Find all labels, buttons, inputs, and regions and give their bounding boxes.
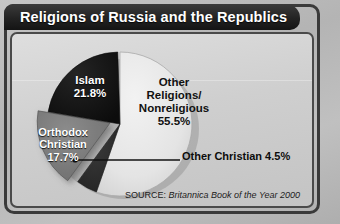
pie-chart bbox=[20, 34, 220, 208]
pie-svg bbox=[20, 34, 220, 208]
source-label: SOURCE: bbox=[125, 190, 166, 200]
title-bar: Religions of Russia and the Republics bbox=[4, 4, 300, 30]
pie-label-other-christian: Other Christian 4.5% bbox=[182, 150, 290, 162]
page-title: Religions of Russia and the Republics bbox=[20, 9, 287, 25]
chart-figure: Religions of Russia and the Republics bbox=[0, 0, 340, 224]
source-reference: Britannica Book of the Year 2000 bbox=[169, 190, 300, 200]
chart-panel: Islam 21.8% Orthodox Christian 17.7% Oth… bbox=[10, 32, 314, 208]
pie-slice-islam bbox=[48, 52, 120, 124]
source-note: SOURCE: Britannica Book of the Year 2000 bbox=[125, 190, 300, 200]
